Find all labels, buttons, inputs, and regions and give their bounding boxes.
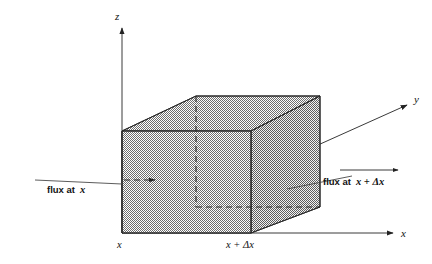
y-axis-line — [318, 105, 407, 145]
flux-in-label: flux atx — [47, 184, 85, 195]
flux-in-variable: x — [79, 184, 85, 195]
y-axis-label: y — [413, 93, 419, 105]
flux-out-text: flux at — [323, 176, 352, 187]
flux-out-label: flux atx + Δx — [323, 176, 384, 187]
figure-container: flux atx flux atx + Δx z y x x x + Δx — [0, 0, 432, 264]
flux-out-variable: x + Δx — [355, 176, 384, 187]
control-volume-box — [122, 96, 320, 233]
box-front-face — [122, 131, 251, 233]
control-volume-diagram: flux atx flux atx + Δx z y x x x + Δx — [0, 0, 432, 264]
x-axis-label: x — [400, 227, 406, 239]
z-axis-label: z — [114, 10, 120, 22]
tick-label-origin: x — [116, 239, 122, 250]
tick-label-far: x + Δx — [225, 239, 254, 250]
flux-in-text: flux at — [47, 184, 76, 195]
